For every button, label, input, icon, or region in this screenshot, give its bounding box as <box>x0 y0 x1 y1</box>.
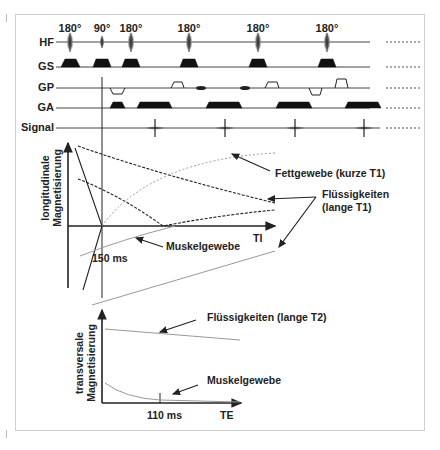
transversal-plot: transversale Magnetisierung 110 ms TE Fl… <box>73 310 327 421</box>
row-label-ga: GA <box>38 101 55 113</box>
fluid-annotation-arrow-2 <box>279 197 316 247</box>
fluid-upper-curve <box>78 146 275 203</box>
fat-recovery-curve <box>75 148 102 290</box>
phase-gradients <box>110 79 348 95</box>
readout-gradients <box>110 102 381 108</box>
muscle-annotation-arrow <box>136 238 163 247</box>
muscle-recovery-curve <box>102 153 275 226</box>
mri-sequence-diagram: 180° 90° 180° 180° 180° 180° HF GS <box>0 0 440 450</box>
fluid-annotation-arrow-1 <box>268 197 316 199</box>
te-110ms-label: 110 ms <box>147 409 182 421</box>
y-axis-label-2: Magnetisierung <box>51 149 63 227</box>
fluid-annotation-2: (lange T1) <box>322 201 372 213</box>
x-axis-label-ti: TI <box>253 232 262 244</box>
fat-annotation-arrow <box>232 154 270 171</box>
fluid-t2-annotation: Flüssigkeiten (lange T2) <box>207 311 327 323</box>
y-axis-label-1: longitudinale <box>39 155 51 220</box>
fluid-annotation-1: Flüssigkeiten <box>322 188 389 200</box>
fluid-t2-arrow <box>160 320 196 332</box>
te-y-axis-label-1: transversale <box>73 332 85 394</box>
fat-annotation: Fettgewebe (kurze T1) <box>275 167 385 179</box>
muscle-t2-annotation: Muskelgewebe <box>207 374 281 386</box>
muscle-t2-arrow <box>173 385 198 394</box>
pulse-label: 90° <box>94 22 111 34</box>
row-label-gs: GS <box>38 60 54 72</box>
x-axis-label-te: TE <box>220 409 233 421</box>
muscle-annotation: Muskelgewebe <box>166 240 240 252</box>
pulse-sequence: 180° 90° 180° 180° 180° 180° HF GS <box>21 22 422 298</box>
ti-150ms-label: 150 ms <box>92 252 128 264</box>
te-y-axis-label-2: Magnetisierung <box>85 324 97 402</box>
row-label-hf: HF <box>39 36 54 48</box>
fluid-t2-decay-curve <box>105 329 240 340</box>
row-label-gp: GP <box>38 81 54 93</box>
row-label-signal: Signal <box>21 121 54 133</box>
longitudinal-plot: longitudinale Magnetisierung TI 150 ms F… <box>39 143 389 305</box>
slice-gradients <box>61 59 336 67</box>
